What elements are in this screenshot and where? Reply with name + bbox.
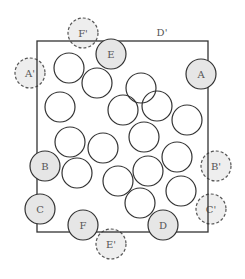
- particle: [125, 188, 155, 218]
- particle: [166, 176, 196, 206]
- particle: [172, 105, 202, 135]
- particle-label: A': [24, 68, 35, 79]
- particle-circle: [54, 53, 84, 83]
- particle-circle: [129, 122, 159, 152]
- particle: [133, 156, 163, 186]
- particle-circle: [133, 156, 163, 186]
- particle: [62, 158, 92, 188]
- particle-circle: [45, 92, 75, 122]
- particle-circle: [55, 127, 85, 157]
- particle: [162, 142, 192, 172]
- d-prime-label: D': [157, 27, 168, 38]
- ghost-particle: F': [68, 18, 98, 48]
- particle: [142, 91, 172, 121]
- particle: [126, 73, 156, 103]
- particle-circle: [172, 105, 202, 135]
- boundary-particle: A: [186, 59, 216, 89]
- particle-label: F: [80, 220, 87, 231]
- particle: [45, 92, 75, 122]
- plain-particles: [45, 53, 202, 218]
- particle-circle: [82, 68, 112, 98]
- periodic-boundary-diagram: F'A'B'C'E' EABCFD D': [0, 0, 245, 279]
- boundary-particle: C: [25, 194, 55, 224]
- particle-label: F': [78, 28, 88, 39]
- particle: [54, 53, 84, 83]
- particle: [129, 122, 159, 152]
- ghost-particle: B': [201, 151, 231, 181]
- particle: [82, 68, 112, 98]
- particle: [108, 95, 138, 125]
- boundary-particle: D: [148, 210, 178, 240]
- boundary-particle: F: [68, 210, 98, 240]
- particle: [103, 166, 133, 196]
- ghost-particle: A': [15, 58, 45, 88]
- particle-circle: [103, 166, 133, 196]
- particle-label: B': [211, 161, 221, 172]
- particle-label: E': [106, 239, 116, 250]
- particle-label: B: [41, 161, 48, 172]
- particle-label: E: [107, 49, 114, 60]
- particle-label: D: [159, 220, 167, 231]
- particle-circle: [88, 133, 118, 163]
- simulation-box: [37, 41, 208, 232]
- boundary-particle: B: [30, 151, 60, 181]
- particle: [88, 133, 118, 163]
- particle-circle: [62, 158, 92, 188]
- particle-circle: [142, 91, 172, 121]
- particle-label: C: [36, 204, 44, 215]
- boundary-particle: E: [96, 39, 126, 69]
- ghost-particle: E': [96, 229, 126, 259]
- particle-circle: [126, 73, 156, 103]
- particle-circle: [162, 142, 192, 172]
- particle-circle: [166, 176, 196, 206]
- particle-circle: [125, 188, 155, 218]
- particle-circle: [108, 95, 138, 125]
- particle: [55, 127, 85, 157]
- ghost-particle: C': [196, 194, 226, 224]
- particle-label: A: [196, 69, 205, 80]
